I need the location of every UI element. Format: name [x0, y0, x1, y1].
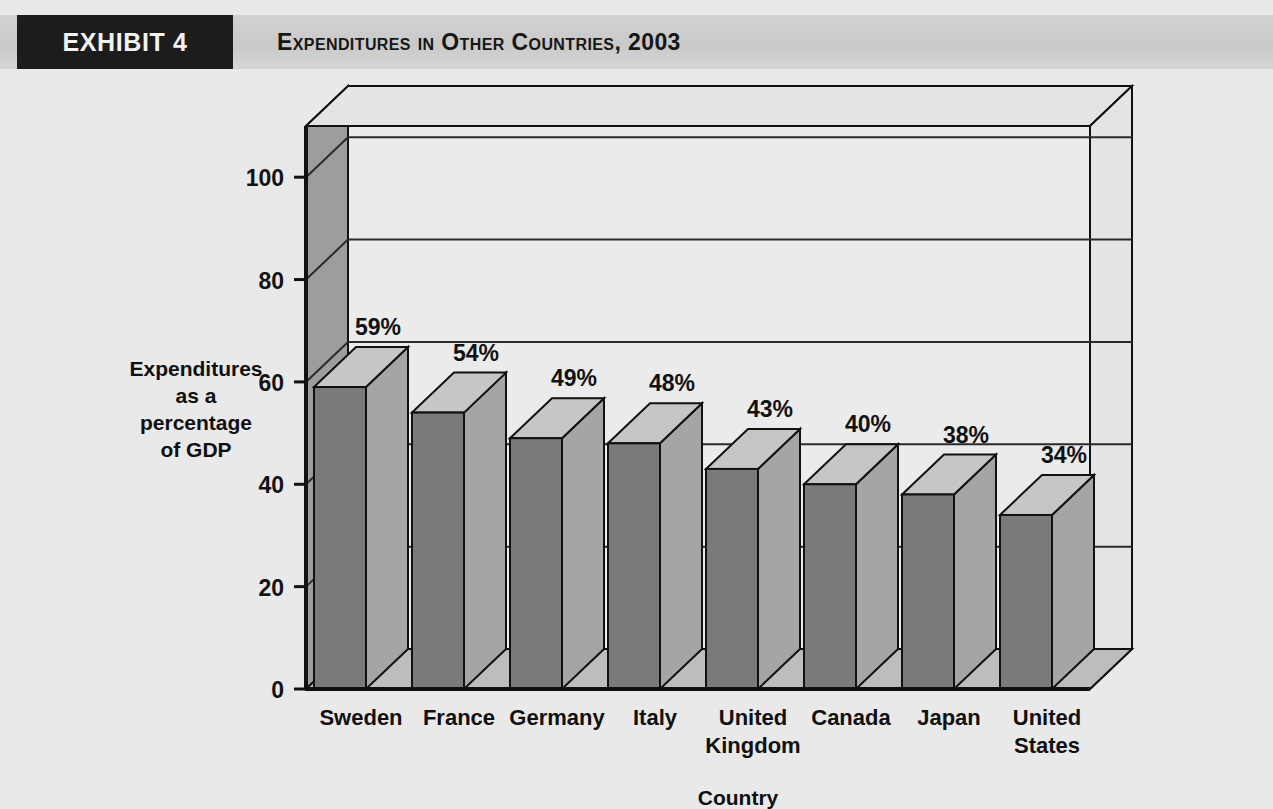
y-axis-title-line-2: percentage — [140, 411, 252, 434]
bar-germany — [510, 398, 604, 689]
bar-united-states — [1000, 475, 1094, 689]
ytick-label-80: 80 — [258, 268, 284, 294]
bar-value-label: 54% — [453, 340, 499, 366]
x-axis-title: Country — [698, 786, 779, 809]
ytick-label-100: 100 — [246, 165, 284, 191]
bar-japan — [902, 455, 996, 689]
category-label-5: Canada — [811, 705, 891, 730]
category-label-1: France — [423, 705, 495, 730]
bar-italy — [608, 403, 702, 689]
bar-front-face — [510, 438, 562, 689]
bar-sweden — [314, 347, 408, 689]
exhibit-title: Expenditures in Other Countries, 2003 — [277, 15, 681, 69]
y-axis-title-line-1: as a — [176, 384, 217, 407]
category-label-2: Germany — [509, 705, 605, 730]
bar-front-face — [1000, 515, 1052, 689]
category-label-7: States — [1014, 733, 1080, 758]
bar-france — [412, 373, 506, 689]
category-label-0: Sweden — [319, 705, 402, 730]
bar-united-kingdom — [706, 429, 800, 689]
bar-front-face — [902, 495, 954, 689]
category-label-3: Italy — [633, 705, 678, 730]
bar-value-label: 43% — [747, 396, 793, 422]
bar-value-label: 40% — [845, 411, 891, 437]
bar-front-face — [412, 413, 464, 689]
y-axis-title-line-3: of GDP — [160, 438, 231, 461]
bar-value-label: 48% — [649, 370, 695, 396]
ytick-label-40: 40 — [258, 472, 284, 498]
bar-canada — [804, 444, 898, 689]
bar-front-face — [314, 387, 366, 689]
bar-value-label: 38% — [943, 422, 989, 448]
category-label-4: Kingdom — [705, 733, 800, 758]
exhibit-page: EXHIBIT 4 Expenditures in Other Countrie… — [0, 0, 1273, 809]
bar-side-face — [366, 347, 408, 689]
bar-side-face — [758, 429, 800, 689]
bar-side-face — [660, 403, 702, 689]
bar-front-face — [608, 443, 660, 689]
bar-front-face — [804, 484, 856, 689]
category-label-6: Japan — [917, 705, 981, 730]
ytick-label-0: 0 — [271, 677, 284, 703]
bar-front-face — [706, 469, 758, 689]
bar-value-label: 59% — [355, 314, 401, 340]
bar-chart: 02040608010034%38%40%43%48%49%54%59%Swed… — [0, 69, 1273, 809]
category-label-4: United — [719, 705, 787, 730]
bar-side-face — [562, 398, 604, 689]
bar-value-label: 34% — [1041, 442, 1087, 468]
plot-right-wall — [1090, 86, 1132, 689]
bar-value-label: 49% — [551, 365, 597, 391]
ytick-label-20: 20 — [258, 575, 284, 601]
bar-side-face — [856, 444, 898, 689]
category-label-7: United — [1013, 705, 1081, 730]
y-axis-title-line-0: Expenditures — [129, 357, 262, 380]
exhibit-number-tag: EXHIBIT 4 — [17, 15, 233, 69]
plot-ceiling — [306, 86, 1132, 126]
bar-side-face — [464, 373, 506, 689]
